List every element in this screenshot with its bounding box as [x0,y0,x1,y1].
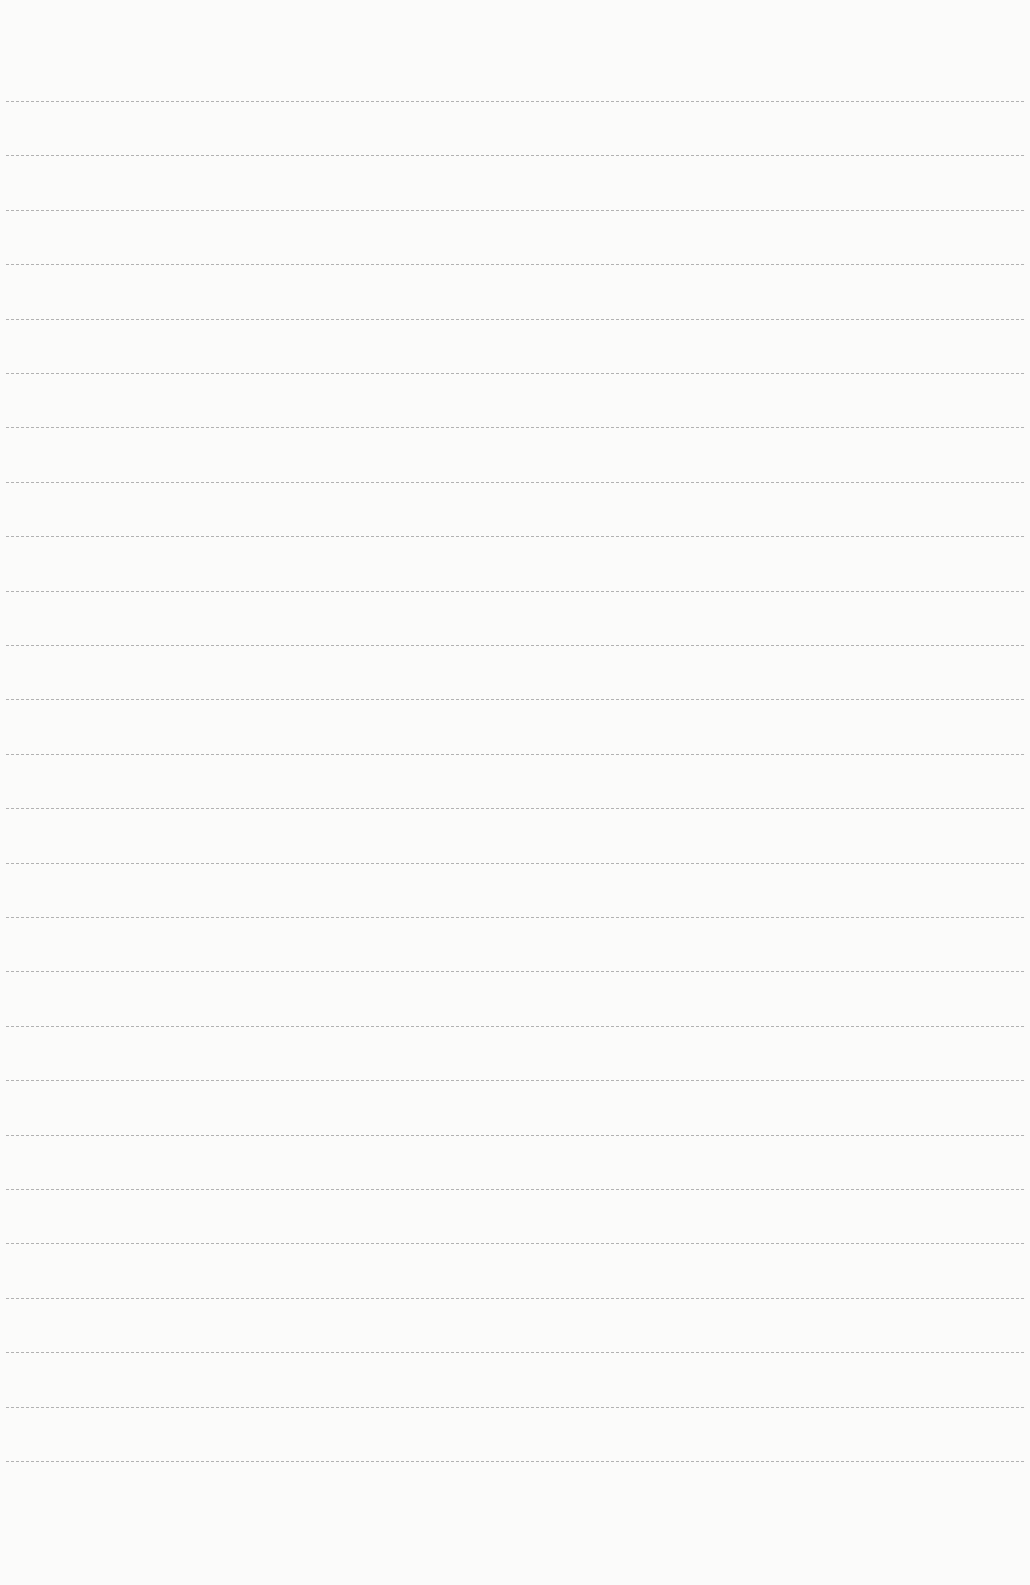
ruled-line [6,210,1024,211]
ruled-line [6,1298,1024,1299]
ruled-line [6,482,1024,483]
ruled-line [6,645,1024,646]
lined-paper-sheet [0,0,1030,1585]
ruled-line [6,699,1024,700]
ruled-line [6,808,1024,809]
ruled-line [6,971,1024,972]
ruled-line [6,754,1024,755]
ruled-line [6,1352,1024,1353]
ruled-line [6,155,1024,156]
ruled-line [6,373,1024,374]
ruled-line [6,1080,1024,1081]
ruled-line [6,591,1024,592]
ruled-line [6,427,1024,428]
ruled-line [6,863,1024,864]
ruled-line [6,1189,1024,1190]
ruled-line [6,917,1024,918]
ruled-line [6,1407,1024,1408]
ruled-line [6,264,1024,265]
ruled-line [6,536,1024,537]
ruled-line [6,1026,1024,1027]
ruled-line [6,1135,1024,1136]
ruled-line [6,101,1024,102]
ruled-line [6,319,1024,320]
ruled-line [6,1461,1024,1462]
ruled-line [6,1243,1024,1244]
